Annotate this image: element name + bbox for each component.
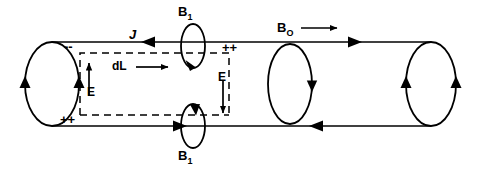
right-end-cap-ellipse (401, 42, 462, 126)
return-flow-arrowhead-bottom-right (309, 121, 323, 132)
b0-flow-arrowhead-top (348, 37, 362, 48)
middle-field-loop-ellipse (268, 44, 317, 124)
return-flow-arrowhead-bottom (173, 121, 187, 132)
label-b1-bottom: B1 (178, 149, 192, 166)
label-e-field-right: E (218, 71, 226, 83)
label-dl: dL (112, 60, 127, 72)
label-charge-positive-bottom-left: ++ (60, 113, 75, 126)
label-e-field-left: E (87, 86, 95, 98)
label-current-density-j: J (129, 28, 136, 41)
label-b1-top: B1 (178, 5, 192, 22)
b1-top-circulation-loop (181, 24, 205, 71)
diagram-canvas (0, 0, 483, 174)
label-charge-positive-top-right: ++ (222, 41, 237, 54)
integration-contour-dashed-rect (80, 53, 229, 115)
label-charge-negative-top-left: -- (64, 40, 73, 53)
current-density-arrowhead-top (141, 37, 155, 48)
label-b0: BO (277, 21, 293, 38)
physics-diagram-figure: B1 B1 BO J dL E E -- ++ ++ (0, 0, 483, 174)
